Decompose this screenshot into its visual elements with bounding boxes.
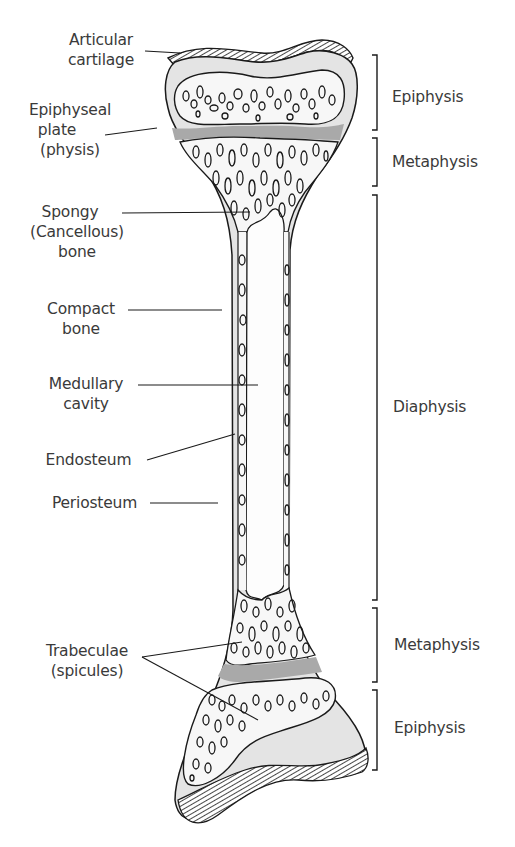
bracket-epiphysis-top [372, 55, 377, 130]
region-label-metaphysis-bottom: Metaphysis [394, 636, 480, 654]
label-trabeculae: Trabeculae (spicules) [34, 641, 140, 681]
label-spongy-bone: Spongy (Cancellous) bone [22, 202, 132, 262]
label-medullary-cavity: Medullary cavity [36, 374, 136, 414]
bracket-metaphysis-top [372, 138, 377, 186]
medullary-cavity [246, 209, 284, 600]
bracket-diaphysis [372, 195, 377, 600]
leader-articular-cartilage [145, 51, 180, 53]
leader-endosteum [147, 434, 235, 460]
region-label-diaphysis: Diaphysis [393, 398, 466, 416]
label-compact-bone: Compact bone [36, 299, 126, 339]
region-brackets [372, 55, 377, 770]
region-label-epiphysis-bottom: Epiphysis [394, 719, 465, 737]
region-label-metaphysis-top: Metaphysis [392, 153, 478, 171]
label-articular-cartilage: Articular cartilage [56, 30, 146, 70]
region-label-epiphysis-top: Epiphysis [392, 88, 463, 106]
upper-metaphysis-spongy [180, 137, 338, 232]
label-endosteum: Endosteum [36, 450, 141, 470]
bracket-metaphysis-bottom [372, 608, 377, 682]
bracket-epiphysis-bottom [372, 690, 377, 770]
label-periosteum: Periosteum [42, 493, 147, 513]
label-epiphyseal-plate: Epiphyseal plate (physis) [20, 100, 120, 160]
